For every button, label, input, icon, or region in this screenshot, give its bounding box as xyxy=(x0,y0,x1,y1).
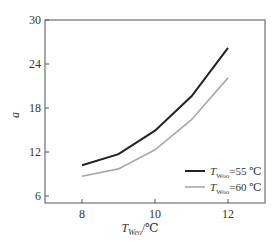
y-axis-label: a xyxy=(8,112,22,118)
y-axis-ticks: 612182430 xyxy=(29,13,49,203)
x-axis-ticks: 81012 xyxy=(79,199,234,221)
y-tick-label: 18 xyxy=(29,101,41,115)
y-tick-label: 12 xyxy=(29,145,41,159)
y-tick-label: 24 xyxy=(29,57,41,71)
line-chart: 612182430 81012 a TWeo/℃ TWoo=55 ℃ TWoo=… xyxy=(0,0,280,246)
series-lines xyxy=(82,48,228,176)
x-axis-label: TWeo/℃ xyxy=(122,221,159,237)
x-tick-label: 12 xyxy=(222,207,234,221)
series-line-1 xyxy=(82,78,228,176)
series-line-0 xyxy=(82,48,228,165)
legend-label-60: TWoo=60 ℃ xyxy=(210,181,261,196)
legend: TWoo=55 ℃ TWoo=60 ℃ xyxy=(185,165,261,196)
x-tick-label: 8 xyxy=(79,207,85,221)
legend-label-55: TWoo=55 ℃ xyxy=(210,165,261,180)
y-tick-label: 30 xyxy=(29,13,41,27)
x-tick-label: 10 xyxy=(149,207,161,221)
y-tick-label: 6 xyxy=(35,189,41,203)
